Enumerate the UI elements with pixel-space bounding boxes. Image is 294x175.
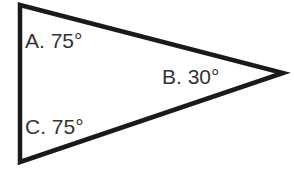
triangle-diagram: A. 75° B. 30° C. 75° [0, 0, 294, 175]
vertex-label-c: C. 75° [25, 115, 84, 138]
vertex-label-b: B. 30° [162, 65, 219, 88]
vertex-label-a: A. 75° [25, 29, 82, 52]
